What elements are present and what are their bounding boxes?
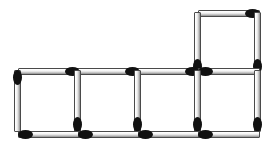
match-row-bottom-1-head bbox=[18, 130, 33, 139]
match-top-square-right[interactable] bbox=[254, 12, 261, 74]
matchstick-puzzle-canvas bbox=[0, 0, 278, 152]
match-row-top-4[interactable] bbox=[198, 68, 260, 75]
match-row-bottom-4-head bbox=[198, 130, 213, 139]
match-vertical-5-head bbox=[253, 117, 262, 132]
match-row-bottom-3-head bbox=[138, 130, 153, 139]
match-top-square-top[interactable] bbox=[198, 10, 260, 17]
match-vertical-1-head bbox=[13, 70, 22, 85]
match-row-top-2[interactable] bbox=[78, 68, 140, 75]
match-vertical-3[interactable] bbox=[134, 70, 141, 132]
match-row-bottom-3[interactable] bbox=[138, 131, 200, 138]
match-vertical-1[interactable] bbox=[14, 70, 21, 132]
match-top-square-left[interactable] bbox=[194, 12, 201, 74]
match-vertical-5[interactable] bbox=[254, 70, 261, 132]
match-row-bottom-2[interactable] bbox=[78, 131, 140, 138]
match-row-top-3[interactable] bbox=[138, 68, 200, 75]
match-row-top-1[interactable] bbox=[18, 68, 80, 75]
match-vertical-4[interactable] bbox=[194, 70, 201, 132]
match-row-bottom-2-head bbox=[78, 130, 93, 139]
match-row-bottom-4[interactable] bbox=[198, 131, 260, 138]
match-row-bottom-1[interactable] bbox=[18, 131, 80, 138]
match-vertical-2[interactable] bbox=[74, 70, 81, 132]
